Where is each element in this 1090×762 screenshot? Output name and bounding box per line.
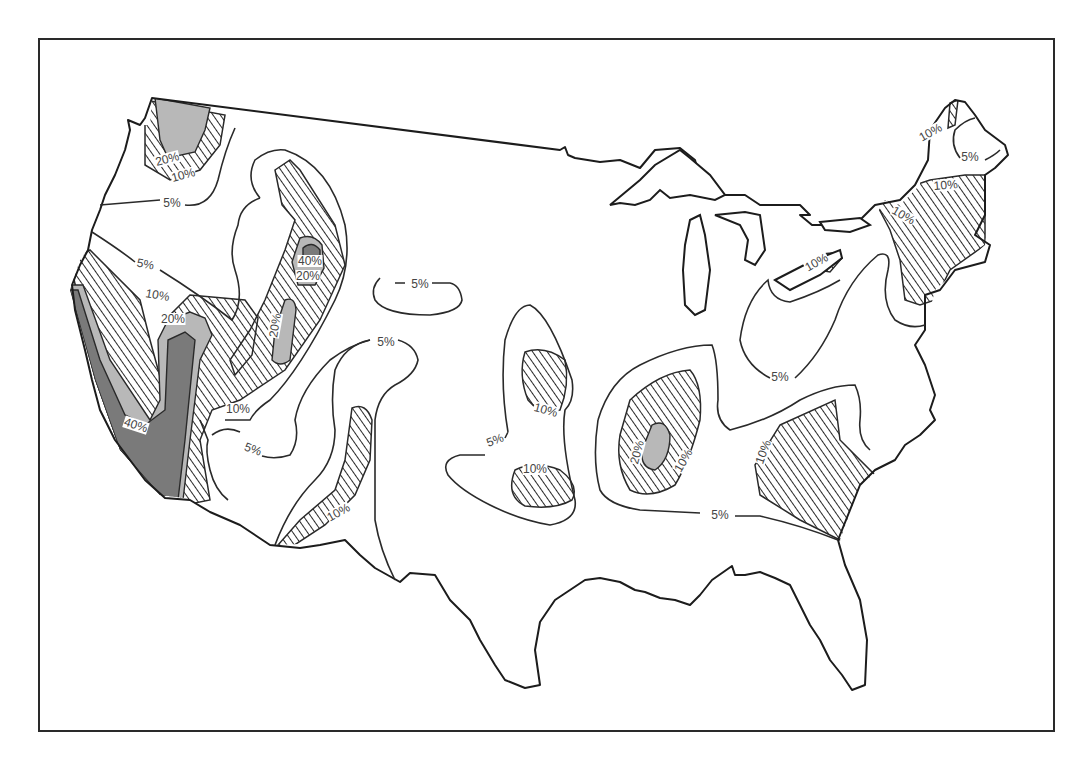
contour-label-me-10: 10% — [916, 120, 945, 145]
contour-label-id-20: 20% — [296, 269, 321, 283]
svg-text:40%: 40% — [298, 254, 322, 268]
zone-10pct-ne — [877, 175, 985, 305]
svg-text:20%: 20% — [161, 312, 185, 326]
svg-text:5%: 5% — [411, 277, 429, 291]
contour-label-ne-10: 10% — [933, 177, 959, 193]
contour-label-ks-5: 5% — [484, 431, 506, 450]
contour-label-ca-10: 10% — [144, 286, 171, 304]
zone-10pct-nm — [278, 407, 372, 549]
lake-superior — [610, 150, 725, 205]
svg-text:20%: 20% — [296, 269, 320, 283]
contour-label-ok-10: 10% — [523, 462, 548, 476]
svg-text:5%: 5% — [961, 150, 979, 164]
lake-huron — [715, 212, 765, 265]
us-contour-map: 20%10%5%5%10%20%40%40%20%20%10%5%10%5%5%… — [0, 0, 1090, 762]
svg-text:10%: 10% — [917, 120, 945, 144]
contour-zones — [70, 98, 985, 548]
svg-text:5%: 5% — [484, 431, 505, 450]
contour-label-me-5: 5% — [961, 150, 979, 164]
svg-text:5%: 5% — [377, 335, 395, 349]
contour-label-oh-5: 5% — [771, 370, 789, 384]
svg-text:5%: 5% — [771, 370, 789, 384]
svg-text:10%: 10% — [144, 286, 170, 304]
lake-michigan — [683, 215, 710, 315]
contour-label-ca-20: 20% — [161, 312, 186, 326]
contour-label-az-5: 5% — [242, 440, 264, 459]
svg-text:10%: 10% — [933, 177, 958, 193]
contour-label-nv-10: 10% — [226, 402, 251, 416]
lake-ontario — [820, 218, 870, 232]
contour-label-id-40: 40% — [298, 254, 323, 268]
svg-text:5%: 5% — [136, 256, 156, 273]
svg-text:10%: 10% — [523, 462, 547, 476]
svg-text:5%: 5% — [163, 196, 181, 210]
contour-label-ca-n-5: 5% — [135, 256, 155, 273]
contour-label-ne-5: 5% — [411, 277, 429, 291]
svg-text:10%: 10% — [226, 402, 250, 416]
contour-label-south-5: 5% — [711, 508, 729, 522]
contour-label-or-5: 5% — [163, 196, 181, 210]
svg-text:5%: 5% — [711, 508, 729, 522]
contour-label-co-5: 5% — [377, 335, 395, 349]
svg-text:5%: 5% — [242, 440, 263, 459]
